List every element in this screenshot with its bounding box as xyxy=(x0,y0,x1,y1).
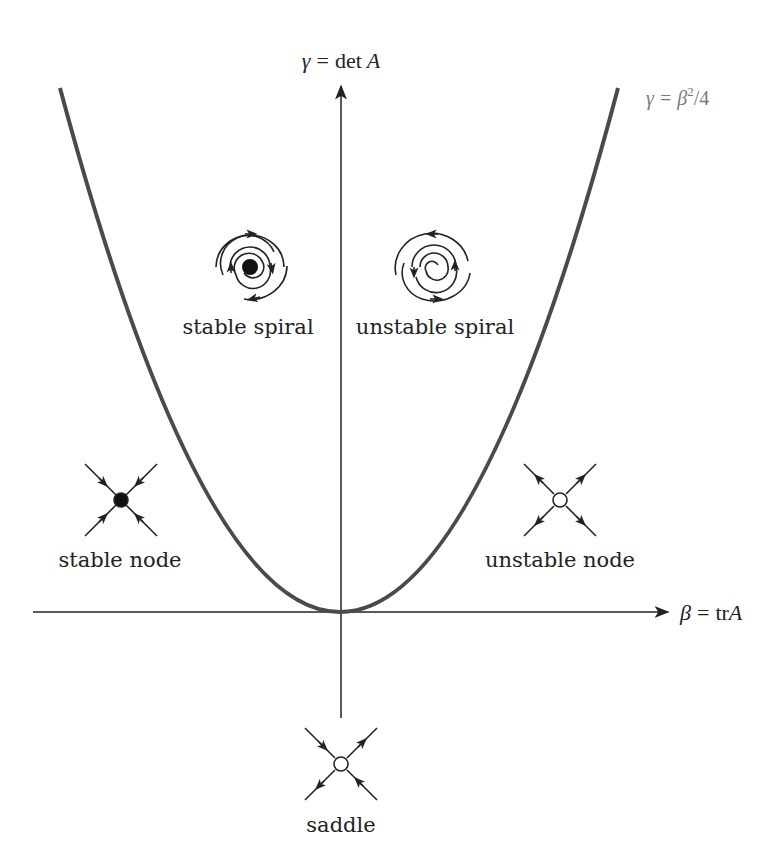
trace-determinant-diagram: γ=detA β=trA γ=β2/4 xyxy=(0,0,781,867)
saddle-label: saddle xyxy=(306,813,375,837)
curve-label: γ=β2/4 xyxy=(646,84,709,110)
stable-node-label: stable node xyxy=(58,548,181,572)
unstable-node-icon xyxy=(524,464,596,536)
parabola-curve xyxy=(60,88,618,612)
saddle-icon xyxy=(305,728,377,800)
unstable-spiral-icon xyxy=(395,233,470,301)
x-axis-label: β=trA xyxy=(679,600,743,625)
unstable-node-label: unstable node xyxy=(485,548,635,572)
unstable-spiral-label: unstable spiral xyxy=(356,315,515,339)
stable-node-icon xyxy=(85,464,157,536)
stable-spiral-label: stable spiral xyxy=(182,315,313,339)
y-axis-label: γ=detA xyxy=(302,48,381,73)
stable-spiral-icon xyxy=(216,234,287,299)
